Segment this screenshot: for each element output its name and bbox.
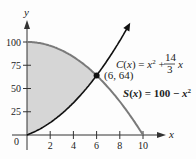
intersection-label: (6, 64) [104,69,134,82]
svg-text:S(x) = 100 − x2: S(x) = 100 − x2 [123,87,192,100]
svg-text:6: 6 [94,140,99,151]
svg-text:25: 25 [11,106,21,117]
svg-text:4: 4 [71,140,76,151]
svg-text:14: 14 [165,51,177,63]
x-axis-label: x [168,128,174,140]
intersection-point [94,73,100,79]
svg-text:C(x) = x2 +: C(x) = x2 + [116,58,165,71]
svg-text:2: 2 [48,140,53,151]
svg-text:10: 10 [138,140,148,151]
origin-label: 0 [14,136,19,147]
y-axis-arrow-icon [24,20,30,29]
x-ticks: 246810 [48,131,148,151]
chart-root: 246810 255075100 (6, 64) x y 0 C(x) = x2… [0,0,196,159]
x-axis-arrow-icon [157,132,166,138]
svg-text:50: 50 [11,83,21,94]
svg-text:75: 75 [11,60,21,71]
svg-text:3: 3 [167,63,173,75]
y-axis-label: y [23,6,29,18]
svg-text:8: 8 [117,140,122,151]
s-equation-label: S(x) = 100 − x2 [123,87,192,100]
svg-text:x: x [177,58,183,70]
svg-text:100: 100 [6,37,21,48]
supply-cost-chart: 246810 255075100 (6, 64) x y 0 C(x) = x2… [0,0,196,159]
